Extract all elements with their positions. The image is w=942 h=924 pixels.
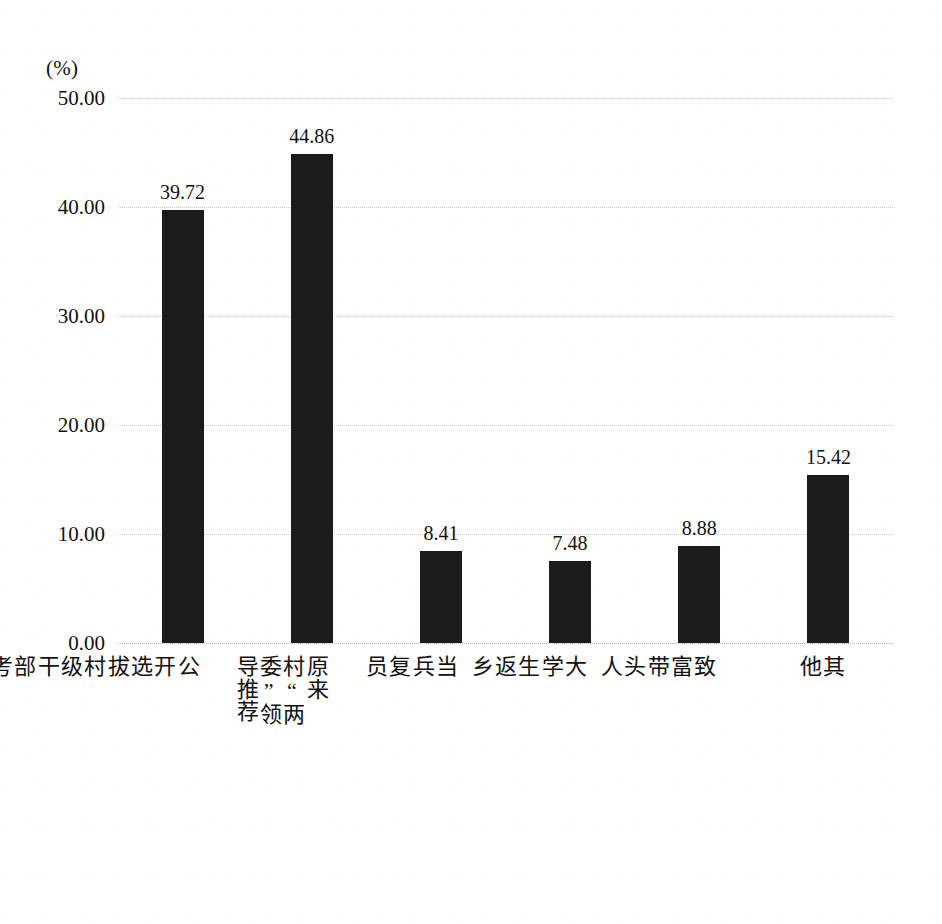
- bar-value-label: 8.41: [423, 523, 458, 543]
- bar-group[interactable]: 15.42其他: [764, 98, 893, 643]
- x-axis-category-label: 大学生返乡: [555, 655, 585, 678]
- y-tick-label: 0.00: [68, 633, 105, 654]
- y-tick-label: 30.00: [58, 306, 105, 327]
- bar-chart-figure: (%) 0.0010.0020.0030.0040.0050.00 39.72公…: [0, 0, 942, 924]
- bar-rect[interactable]: [291, 154, 333, 643]
- bar-group[interactable]: 8.88致富带头人: [635, 98, 764, 643]
- bar-group[interactable]: 7.48大学生返乡: [506, 98, 635, 643]
- bar-rect[interactable]: [420, 551, 462, 643]
- y-tick-label: 10.00: [58, 524, 105, 545]
- plot-area: 0.0010.0020.0030.0040.0050.00 39.72公开选拔村…: [118, 98, 893, 643]
- bar-value-label: 44.86: [289, 126, 334, 146]
- bar-rect[interactable]: [549, 561, 591, 643]
- y-tick-label: 40.00: [58, 197, 105, 218]
- bar-group[interactable]: 8.41当兵复员: [376, 98, 505, 643]
- x-axis-category-label: 公开选拔村级干部考试: [168, 655, 198, 678]
- x-axis-category-label: 其他: [813, 655, 843, 678]
- bar-group[interactable]: 39.72公开选拔村级干部考试: [118, 98, 247, 643]
- x-axis-category-label: 致富带头人: [684, 655, 714, 678]
- y-axis-unit-label: (%): [46, 56, 78, 81]
- gridline: [118, 643, 893, 644]
- x-axis-category-label: 原来村“两委”领导推荐: [297, 655, 327, 726]
- bar-rect[interactable]: [162, 210, 204, 643]
- bar-value-label: 8.88: [682, 518, 717, 538]
- x-axis-category-label: 当兵复员: [426, 655, 456, 678]
- bar-group[interactable]: 44.86原来村“两委”领导推荐: [247, 98, 376, 643]
- bar-value-label: 15.42: [806, 447, 851, 467]
- bar-rect[interactable]: [678, 546, 720, 643]
- y-tick-label: 50.00: [58, 88, 105, 109]
- bar-value-label: 39.72: [160, 182, 205, 202]
- y-tick-label: 20.00: [58, 415, 105, 436]
- bar-rect[interactable]: [807, 475, 849, 643]
- bar-value-label: 7.48: [553, 533, 588, 553]
